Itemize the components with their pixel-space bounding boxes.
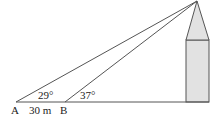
elevation-diagram: 29° 37° A 30 m B <box>0 0 221 115</box>
angle-b-label: 37° <box>80 89 95 101</box>
sightline-from-a <box>16 1 197 102</box>
distance-label: 30 m <box>29 104 52 115</box>
sightline-from-b <box>65 1 197 102</box>
point-a-label: A <box>11 104 19 115</box>
point-b-label: B <box>60 104 67 115</box>
tower-body <box>186 40 209 102</box>
angle-a-label: 29° <box>38 89 53 101</box>
